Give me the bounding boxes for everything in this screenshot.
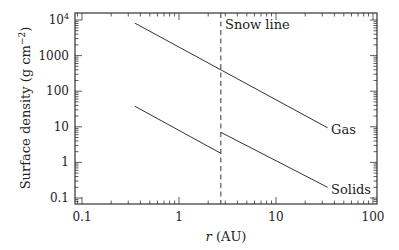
solids-label: Solids bbox=[331, 182, 371, 197]
x-tick-label: 10 bbox=[268, 210, 283, 224]
y-tick-label: 1 bbox=[61, 155, 69, 169]
y-tick-label: 104 bbox=[49, 12, 69, 27]
series-gas bbox=[135, 23, 328, 128]
data-series bbox=[135, 13, 328, 204]
y-tick-label: 1000 bbox=[38, 49, 69, 63]
x-axis-label: r (AU) bbox=[206, 229, 247, 244]
y-tick-label: 10 bbox=[54, 120, 69, 134]
x-tick-label: 100 bbox=[362, 210, 385, 224]
y-tick-label: 100 bbox=[46, 84, 69, 98]
x-tick-label: 1 bbox=[175, 210, 183, 224]
surface-density-chart: 0.11101000.11101001000104 Gas Solids Sno… bbox=[0, 0, 399, 250]
x-tick-label: 0.1 bbox=[72, 210, 91, 224]
series-solids-inner bbox=[135, 106, 221, 153]
axis-ticks bbox=[75, 13, 377, 204]
y-axis-label: Surface density (g cm−2) bbox=[17, 27, 33, 190]
gas-label: Gas bbox=[331, 122, 356, 137]
plot-border bbox=[75, 13, 377, 204]
snow-line-label: Snow line bbox=[225, 17, 290, 32]
series-solids bbox=[221, 132, 328, 187]
plot-frame bbox=[75, 13, 377, 204]
y-tick-label: 0.1 bbox=[50, 191, 69, 205]
